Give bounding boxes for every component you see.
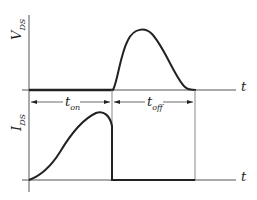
upper-time-label: t xyxy=(241,80,246,93)
vds-curve xyxy=(29,30,196,90)
ton-arrow-right-icon xyxy=(104,100,110,104)
lower-time-label: t xyxy=(241,170,246,183)
waveform-canvas xyxy=(0,0,257,200)
toff-label: toff xyxy=(147,95,163,112)
ids-curve xyxy=(29,112,195,180)
toff-arrow-right-icon xyxy=(187,100,193,104)
switching-waveform-diagram: VDS t IDS t ton toff xyxy=(0,0,257,200)
ids-axis-label: IDS xyxy=(10,114,27,131)
vds-axis-label: VDS xyxy=(10,19,27,40)
ton-arrow-left-icon xyxy=(31,100,37,104)
toff-arrow-left-icon xyxy=(114,100,120,104)
ton-label: ton xyxy=(65,95,80,112)
